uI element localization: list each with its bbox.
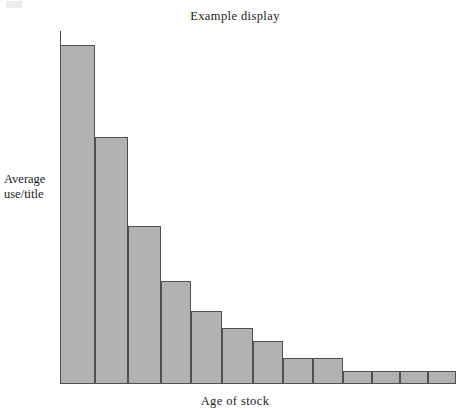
bar: [283, 358, 313, 384]
bar: [428, 371, 456, 384]
chart-figure: Example display Average use/title Age of…: [0, 0, 470, 414]
bar: [60, 45, 95, 384]
x-axis-label: Age of stock: [0, 394, 470, 409]
bar: [222, 328, 253, 384]
bar: [253, 341, 283, 384]
bar: [343, 371, 372, 384]
bar: [372, 371, 400, 384]
plot-area: [0, 0, 470, 414]
bar: [128, 226, 161, 384]
bar: [191, 311, 222, 384]
bar: [95, 137, 128, 384]
bar: [400, 371, 428, 384]
bar: [313, 358, 343, 384]
bar: [161, 281, 191, 384]
